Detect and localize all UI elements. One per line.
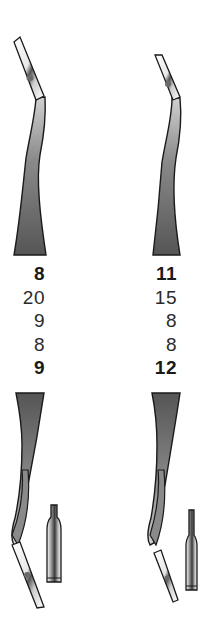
left-lower-working-end	[12, 393, 44, 608]
left-spec-value: 9	[34, 356, 45, 380]
instrument-diagram: 8 20 9 8 9 11 15 8 8 12	[0, 0, 202, 625]
right-spec-value: 15	[155, 286, 177, 310]
left-spec-value: 8	[34, 333, 45, 357]
right-spec-numbers: 11 15 8 8 12	[137, 262, 177, 380]
left-spec-value: 9	[34, 309, 45, 333]
right-tip-profile	[186, 510, 197, 590]
left-upper-working-end	[14, 37, 46, 255]
right-spec-value: 12	[155, 356, 177, 380]
right-spec-value: 8	[166, 309, 177, 333]
left-spec-value: 20	[23, 286, 45, 310]
left-spec-value: 8	[34, 262, 45, 286]
left-tip-profile	[47, 505, 61, 582]
right-lower-working-end	[148, 393, 180, 602]
right-spec-value: 8	[166, 333, 177, 357]
right-spec-value: 11	[156, 262, 177, 286]
right-upper-working-end	[153, 55, 181, 255]
left-spec-numbers: 8 20 9 8 9	[5, 262, 45, 380]
